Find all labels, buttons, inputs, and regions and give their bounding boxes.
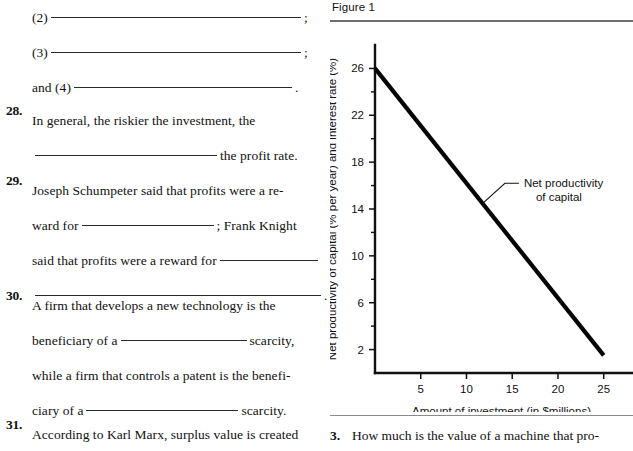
x-tick-label: 25 [597, 383, 610, 395]
continued-label-4: and (4) [32, 80, 71, 95]
fill-in-blank[interactable] [51, 17, 301, 18]
x-tick-label: 15 [506, 383, 519, 395]
continued-label-3: (3) [32, 45, 48, 60]
question-30-line-3: while a firm that controls a patent is t… [32, 358, 318, 393]
x-axis-ticks: 510152025 [418, 372, 611, 395]
annotation-label-line-1: Net productivity [524, 177, 604, 189]
fill-in-blank[interactable] [82, 225, 214, 226]
fill-in-blank[interactable] [74, 87, 292, 88]
question-28-line-1: In general, the riskier the investment, … [32, 103, 318, 138]
figure-caption: Figure 1 [332, 1, 375, 13]
annotation-label-line-2: of capital [536, 191, 582, 203]
annotation-leader-line [483, 183, 519, 203]
y-tick-label: 2 [358, 344, 364, 356]
continued-line-4: and (4). [32, 70, 318, 105]
question-30-line-2-post: scarcity, [250, 333, 295, 348]
question-29-line-3: said that profits were a reward for [32, 243, 318, 278]
continued-suffix-4: . [295, 80, 298, 95]
x-tick-label: 10 [460, 383, 473, 395]
left-column-questions: (2); (3); and (4). 28. In general, the r… [0, 0, 322, 451]
next-question-number: 3. [330, 428, 352, 444]
fill-in-blank[interactable] [51, 52, 301, 53]
continued-suffix-2: ; [304, 10, 308, 25]
workbook-page: (2); (3); and (4). 28. In general, the r… [0, 0, 633, 451]
question-29-line-2-pre: ward for [32, 218, 79, 233]
question-29-line-1: Joseph Schumpeter said that profits were… [32, 173, 318, 208]
question-31-number: 31. [6, 417, 32, 433]
next-question-text: How much is the value of a machine that … [352, 428, 599, 443]
y-tick-label: 14 [351, 203, 364, 215]
right-column-figure: Figure 1 261014182226 510152025 Net prod… [330, 0, 633, 451]
question-30-line-2-pre: beneficiary of a [32, 333, 118, 348]
net-productivity-chart: 261014182226 510152025 Net productivity … [330, 20, 633, 412]
y-axis-title: Net productivity of capital (% per year)… [330, 58, 338, 360]
x-tick-label: 5 [418, 383, 424, 395]
question-28-line-2: the profit rate. [32, 138, 318, 173]
y-tick-label: 22 [351, 109, 364, 121]
y-tick-label: 10 [351, 250, 364, 262]
question-29-line-2-post: ; Frank Knight [217, 218, 297, 233]
chart-series-group [375, 68, 604, 355]
figure-bottom-rule [330, 415, 633, 416]
question-30-number: 30. [6, 288, 32, 304]
question-29-line-3-pre: said that profits were a reward for [32, 253, 217, 268]
y-axis-ticks: 261014182226 [351, 62, 376, 355]
y-tick-label: 18 [351, 156, 364, 168]
x-axis-title: Amount of investment (in $millions) [412, 405, 591, 412]
continued-line-2: (2); [32, 0, 318, 35]
question-28-line-2-post: the profit rate. [220, 148, 298, 163]
fill-in-blank[interactable] [121, 340, 247, 341]
continued-label-2: (2) [32, 10, 48, 25]
fill-in-blank[interactable] [86, 410, 238, 411]
chart-annotation-group: Net productivity of capital [483, 177, 603, 203]
y-tick-label: 26 [351, 62, 364, 74]
question-29-number: 29. [6, 173, 32, 189]
continued-suffix-3: ; [304, 45, 308, 60]
series-line-net-productivity [375, 68, 604, 355]
question-29-line-4-post: . [324, 288, 327, 303]
question-30-line-2: beneficiary of ascarcity, [32, 323, 318, 358]
question-30-line-4-pre: ciary of a [32, 403, 83, 418]
chart-svg: 261014182226 510152025 Net productivity … [330, 20, 633, 412]
question-29-line-2: ward for; Frank Knight [32, 208, 318, 243]
question-31-line-1: According to Karl Marx, surplus value is… [32, 417, 318, 451]
question-28-number: 28. [6, 103, 32, 119]
fill-in-blank[interactable] [220, 260, 318, 261]
x-tick-label: 20 [552, 383, 565, 395]
question-30-line-1: A firm that develops a new technology is… [32, 288, 318, 323]
fill-in-blank[interactable] [35, 155, 217, 156]
question-30-line-4-post: scarcity. [241, 403, 286, 418]
y-tick-label: 6 [358, 297, 364, 309]
next-question-3: 3.How much is the value of a machine tha… [330, 428, 633, 444]
continued-line-3: (3); [32, 35, 318, 70]
